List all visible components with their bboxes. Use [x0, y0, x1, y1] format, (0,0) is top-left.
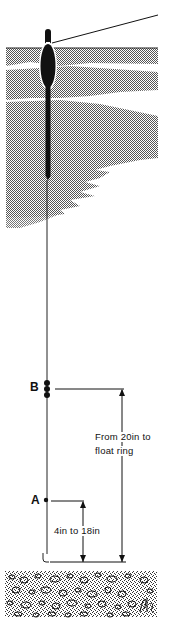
gravel-bed: [5, 571, 157, 617]
shot-a: [44, 498, 48, 502]
rod-line: [52, 15, 158, 43]
label-a-distance: 4in to 18in: [54, 526, 100, 536]
float-rig-diagram: B A From 20in to float ring 4in to 18in: [0, 0, 176, 635]
label-b-distance-line1: From 20in to: [95, 432, 151, 442]
label-point-b: B: [30, 381, 39, 394]
shot-cluster-b: [44, 380, 50, 398]
hook: [43, 553, 49, 562]
label-point-a: A: [31, 494, 40, 507]
water-shading: [6, 48, 158, 228]
label-b-distance-line2: float ring: [95, 446, 133, 456]
